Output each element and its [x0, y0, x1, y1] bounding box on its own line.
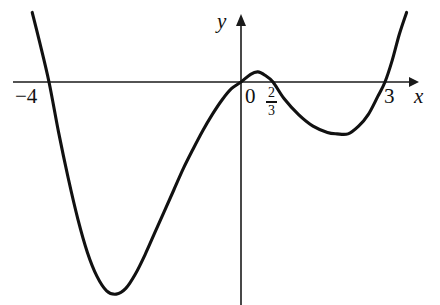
y-axis-arrowhead: [236, 14, 246, 26]
curve-group: [32, 12, 406, 294]
fraction-denominator: 3: [267, 104, 276, 118]
y-axis-label: y: [217, 11, 226, 32]
fraction-numerator: 2: [267, 86, 276, 100]
axes-group: [13, 14, 419, 305]
x-axis-label: x: [414, 86, 423, 107]
origin-label-zero: 0: [245, 86, 256, 107]
plot-canvas: [0, 0, 440, 305]
x-intercept-label-two-thirds: 2 3: [266, 86, 277, 118]
graph-figure: −4 0 2 3 3 y x: [0, 0, 440, 305]
x-intercept-label-three: 3: [384, 86, 395, 107]
x-intercept-label-negative-four: −4: [15, 86, 37, 107]
polynomial-curve: [32, 12, 406, 294]
